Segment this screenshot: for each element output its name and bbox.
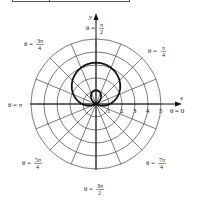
svg-text:4: 4	[162, 52, 165, 58]
angle-label-3pi-2: θ = 3π 2	[84, 183, 104, 196]
angle-label-7pi-4: θ = 7π 4	[146, 157, 166, 170]
angle-label-5pi-4: θ = 5π 4	[22, 157, 42, 170]
y-axis-arrow-icon	[94, 13, 99, 20]
svg-text:3π: 3π	[97, 183, 103, 189]
tick-2: 2	[120, 107, 124, 115]
svg-text:θ =: θ =	[86, 24, 95, 32]
tick-1: 1	[107, 107, 111, 115]
x-axis-label: x	[179, 94, 184, 102]
angle-label-3pi-4: θ = 3π 4	[24, 38, 44, 51]
angle-label-pi-2: θ = π 2	[86, 22, 104, 35]
svg-text:θ =: θ =	[22, 159, 31, 167]
svg-text:4: 4	[160, 164, 163, 170]
svg-text:θ =: θ =	[24, 40, 33, 48]
svg-text:3π: 3π	[37, 38, 43, 44]
angle-label-0: θ = 0	[170, 107, 185, 115]
y-axis-label: y	[88, 13, 93, 21]
angle-label-pi-4: θ = π 4	[148, 45, 166, 58]
svg-text:θ =: θ =	[148, 47, 157, 55]
tick-5: 5	[159, 107, 163, 115]
svg-text:θ =: θ =	[84, 185, 93, 193]
svg-text:7π: 7π	[159, 157, 165, 163]
tick-4: 4	[146, 107, 150, 115]
polar-graph: x y 1 2 3 4 5 θ = 0 θ = π θ = π 2 θ = π …	[0, 0, 197, 208]
svg-text:4: 4	[36, 164, 39, 170]
tick-3: 3	[133, 107, 137, 115]
x-axis-arrow-icon	[175, 102, 182, 107]
angle-label-pi: θ = π	[8, 101, 23, 109]
svg-text:π: π	[162, 45, 165, 51]
svg-text:4: 4	[38, 45, 41, 51]
svg-text:θ =: θ =	[146, 159, 155, 167]
svg-text:5π: 5π	[35, 157, 41, 163]
svg-text:2: 2	[100, 29, 103, 35]
grid-ray	[50, 104, 96, 150]
svg-text:2: 2	[98, 190, 101, 196]
svg-text:π: π	[100, 22, 103, 28]
